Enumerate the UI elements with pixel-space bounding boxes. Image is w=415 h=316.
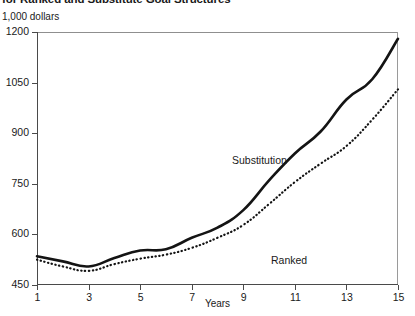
- x-tick-3: 3: [89, 285, 90, 290]
- x-tick-7: 7: [192, 285, 193, 290]
- series-line-ranked: [37, 89, 398, 271]
- x-tick-1: 1: [37, 285, 38, 290]
- chart-screenshot: for Ranked and Substitute Goal Structure…: [0, 0, 415, 316]
- x-tick-9: 9: [243, 285, 244, 290]
- y-tick-label-1050: 1050: [6, 76, 29, 88]
- y-tick-label-1200: 1200: [6, 25, 29, 37]
- x-tick-15: 15: [398, 285, 399, 290]
- page-title: for Ranked and Substitute Goal Structure…: [2, 0, 231, 5]
- y-tick-label-900: 900: [11, 126, 29, 138]
- x-tick-5: 5: [140, 285, 141, 290]
- x-tick-13: 13: [346, 285, 347, 290]
- series-line-substitution: [37, 39, 398, 267]
- series-label-ranked: Ranked: [271, 254, 307, 266]
- plot-area: 45060075090010501200 13579111315 Substit…: [37, 32, 398, 285]
- series-plot: [37, 32, 398, 285]
- series-label-substitution: Substitution: [232, 154, 287, 166]
- y-tick-label-750: 750: [11, 177, 29, 189]
- y-tick-label-600: 600: [11, 227, 29, 239]
- x-tick-11: 11: [295, 285, 296, 290]
- y-axis-unit-label: 1,000 dollars: [2, 11, 59, 22]
- x-axis-title: Years: [37, 298, 398, 309]
- y-tick-label-450: 450: [11, 278, 29, 290]
